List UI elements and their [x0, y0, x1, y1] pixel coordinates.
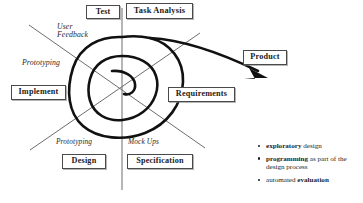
bullet-rest: design [303, 142, 322, 150]
node-box-test[interactable]: Test [86, 5, 120, 19]
axis-label-mock-ups: Mock Ups [128, 138, 159, 146]
axis-label-prototyping-upper: Prototyping [22, 59, 60, 67]
bullet-emphasis: evaluation [297, 176, 329, 184]
node-label-task-analysis: Task Analysis [134, 7, 185, 15]
node-label-design: Design [72, 157, 97, 165]
bullet-dot-icon [258, 157, 260, 159]
node-label-requirements: Requirements [176, 90, 227, 98]
list-item: exploratory design [258, 142, 362, 150]
bullet-emphasis: exploratory [266, 142, 303, 150]
bullet-dot-icon [258, 145, 260, 147]
bullet-emphasis: programming [266, 155, 310, 163]
spiral-middle-turn [89, 56, 158, 120]
axis-label-prototyping-lower: Prototyping [56, 138, 92, 146]
node-box-design[interactable]: Design [62, 154, 106, 169]
node-box-specification[interactable]: Specification [127, 154, 193, 169]
product-exit-arrow-shaft [150, 38, 258, 71]
feature-bullet-list: exploratory design programming as part o… [258, 142, 362, 189]
node-box-task-analysis[interactable]: Task Analysis [126, 3, 193, 19]
node-box-product[interactable]: Product [243, 50, 287, 65]
bullet-dot-icon [258, 179, 260, 181]
axis-label-user-feedback-line2: Feedback [57, 31, 88, 39]
node-label-test: Test [96, 8, 111, 16]
bullet-rest: automated [266, 176, 297, 184]
node-label-implement: Implement [18, 88, 58, 96]
list-item: programming as part of the design proces… [258, 155, 362, 172]
diagram-canvas: Test Task Analysis Product Implement Req… [0, 0, 363, 203]
list-item: automated evaluation [258, 176, 362, 184]
axis-label-user-feedback: User Feedback [57, 23, 88, 39]
spiral-outer-turn [69, 36, 183, 137]
node-label-product: Product [250, 53, 279, 61]
node-label-specification: Specification [136, 157, 184, 165]
node-box-implement[interactable]: Implement [11, 85, 66, 100]
node-box-requirements[interactable]: Requirements [168, 87, 235, 102]
